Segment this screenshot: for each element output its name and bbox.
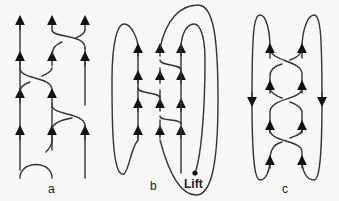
panel-c-label: c: [282, 182, 288, 196]
panel-a: a: [20, 20, 85, 196]
panel-b-label: b: [150, 179, 157, 193]
panel-a-label: a: [48, 182, 55, 196]
panel-c: c: [252, 15, 322, 196]
braid-diagram: a b Lift: [0, 0, 339, 201]
lift-point: [192, 170, 197, 175]
panel-b: b Lift: [112, 5, 218, 195]
lift-label: Lift: [184, 177, 203, 191]
